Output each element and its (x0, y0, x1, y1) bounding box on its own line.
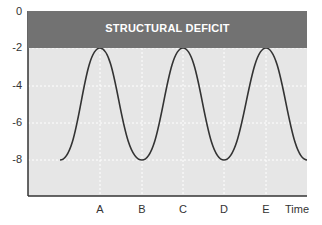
x-tick-a: A (96, 203, 103, 215)
x-tick-b: B (138, 203, 145, 215)
x-axis-label: Time (285, 203, 309, 215)
structural-deficit-band: STRUCTURAL DEFICIT (28, 11, 307, 48)
banner-label: STRUCTURAL DEFICIT (28, 22, 307, 34)
x-tick-d: D (220, 203, 228, 215)
y-tick-minus-2: -2 (4, 41, 22, 53)
y-tick-minus-4: -4 (4, 79, 22, 91)
y-tick-minus-8: -8 (4, 153, 22, 165)
y-tick-minus-6: -6 (4, 116, 22, 128)
x-tick-e: E (262, 203, 269, 215)
y-tick-0: 0 (4, 5, 22, 17)
x-tick-c: C (179, 203, 187, 215)
